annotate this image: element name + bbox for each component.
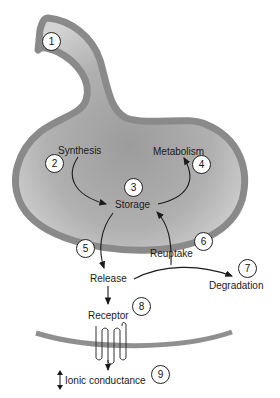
step-badge-3: 3	[124, 178, 143, 197]
step-badge-4: 4	[192, 155, 211, 174]
label-reuptake: Reuptake	[150, 248, 193, 260]
step-badge-6: 6	[194, 232, 213, 251]
step-badge-5: 5	[76, 239, 95, 258]
label-storage: Storage	[115, 199, 150, 211]
label-receptor: Receptor	[88, 310, 129, 322]
step-badge-8: 8	[132, 297, 151, 316]
step-badge-1: 1	[42, 32, 61, 51]
label-ionic-conductance: Ionic conductance	[65, 375, 146, 387]
label-degradation: Degradation	[209, 280, 263, 292]
label-synthesis: Synthesis	[58, 145, 101, 157]
step-badge-7: 7	[238, 259, 257, 278]
step-badge-2: 2	[45, 154, 64, 173]
presynaptic-terminal	[16, 18, 245, 250]
postsynaptic-membrane	[36, 332, 232, 346]
step-badge-9: 9	[151, 365, 170, 384]
label-release: Release	[90, 273, 127, 285]
arrow-release-degradation	[134, 267, 232, 279]
